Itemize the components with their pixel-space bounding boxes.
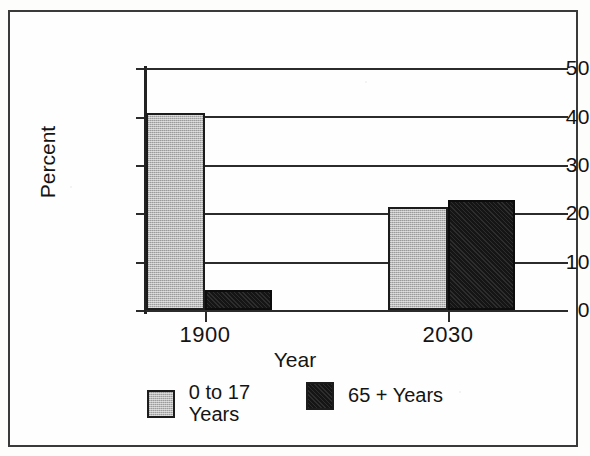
gridline-30 (146, 165, 568, 167)
x-tick-mark-2030 (448, 310, 450, 322)
legend-swatch-black-icon (306, 382, 334, 410)
bar-1900-65plus (205, 290, 272, 310)
legend-label-65plus: 65 + Years (348, 385, 443, 407)
y-axis-title: Percent (36, 102, 60, 222)
legend-item-65plus: 65 + Years (306, 382, 443, 410)
x-tick-mark-1900 (205, 310, 207, 322)
bar-2030-65plus (448, 200, 515, 310)
bar-1900-0to17 (146, 113, 205, 310)
chart-page: Percent 50 40 30 20 10 0 1900 2030 Year … (0, 0, 590, 456)
plot-area (146, 68, 568, 310)
legend-label-0to17: 0 to 17 Years (189, 382, 250, 425)
x-tick-label-2030: 2030 (393, 322, 503, 348)
x-tick-label-1900: 1900 (150, 322, 260, 348)
x-axis-title: Year (0, 348, 590, 372)
gridline-40 (146, 116, 568, 118)
legend-swatch-gray-icon (147, 390, 175, 418)
bar-2030-0to17 (388, 207, 448, 310)
axis-baseline-0 (146, 310, 568, 312)
legend-item-0to17: 0 to 17 Years (147, 382, 250, 425)
chart-legend: 0 to 17 Years 65 + Years (0, 382, 590, 425)
gridline-50 (146, 68, 568, 70)
